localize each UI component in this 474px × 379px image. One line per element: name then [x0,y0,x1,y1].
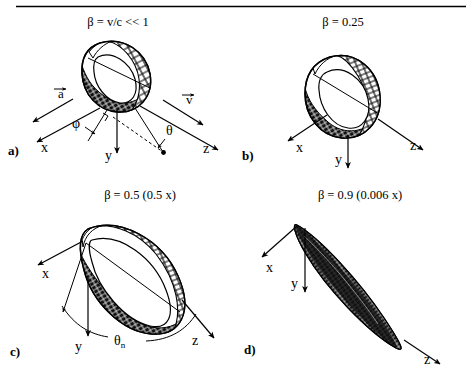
panel-d-radiation-lobe [290,218,410,358]
panel-d-title: β = 0.9 (0.006 x) [318,188,402,202]
panel-c: β = 0.5 (0.5 x) x y z [10,188,214,359]
panel-b-axis-z-label: z [410,138,416,153]
panel-c-axis-y-label: y [75,339,82,354]
panel-a-projection-line [88,110,107,141]
panel-b-axis-z [378,119,423,150]
panel-a-velocity-vector-arrow [163,100,203,125]
panel-d-label: d) [244,342,256,357]
panel-a-label: a) [8,143,19,158]
panel-c-theta-n-left-ray [63,243,86,312]
panel-a-phi-label: φ [72,116,80,131]
panel-d-axis-z-label: z [424,352,430,367]
panel-a-axis-z-label: z [203,141,209,156]
panel-d-axis-x-label: x [266,260,273,275]
panel-c-title: β = 0.5 (0.5 x) [104,188,176,202]
panel-b: β = 0.25 x y z b) [242,15,423,168]
panel-c-axis-x [38,241,83,265]
panel-c-axis-x-label: x [42,266,49,281]
panel-a-right-angle-mark [103,113,108,121]
panel-a-axis-y-label: y [105,148,112,163]
panel-a-acceleration-vector-label: a [58,86,64,101]
panel-d-axis-y-label: y [291,276,298,291]
panel-c-axis-z-label: z [192,333,198,348]
panel-d-axis-z [404,340,440,364]
panel-a-observation-ray [135,108,163,152]
panel-a-radiation-lobe [82,40,152,113]
panel-a-title: β = v/c << 1 [87,15,149,29]
panel-a-theta-leader [158,139,165,148]
panel-c-label: c) [10,344,20,359]
panel-c-radiation-lobe [80,225,187,337]
panel-b-title: β = 0.25 [322,15,364,29]
panel-a-axis-x-label: x [41,140,48,155]
panel-b-axis-x-label: x [296,140,303,155]
panel-b-axis-y-label: y [335,152,342,167]
panel-a-acceleration-vector-arrow [33,99,73,122]
panel-a-theta-label: θ [166,123,173,138]
panel-b-label: b) [242,148,254,163]
radiation-pattern-figure: β = v/c << 1 x y [0,0,474,379]
panel-b-radiation-lobe [305,54,381,139]
panel-a-field-point-dot [161,150,166,155]
panel-a-dashed-observation-ray [113,117,163,152]
panel-c-theta-n-arc-left [62,306,108,337]
panel-c-theta-n-label: θn [114,333,126,350]
panel-a-velocity-vector-label: v [186,92,193,107]
panel-a: β = v/c << 1 x y [8,15,218,163]
panel-d-axis-x [262,226,297,257]
panel-d: β = 0.9 (0.006 x) x y z d) [244,188,440,367]
